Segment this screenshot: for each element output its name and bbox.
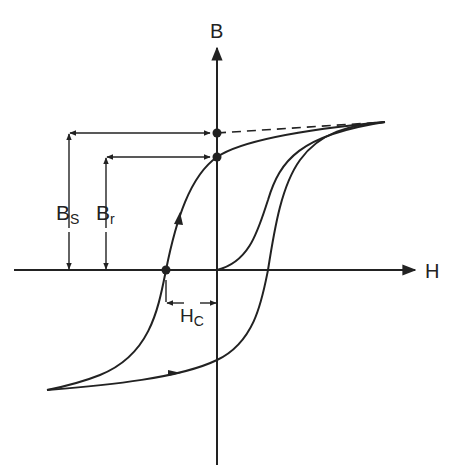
descending-direction-arrow: [174, 212, 183, 225]
coercivity-point: [162, 266, 171, 275]
br-label: Br: [96, 201, 115, 227]
remanence-point: [213, 153, 222, 162]
h-axis-label: H: [425, 260, 439, 282]
ascending-direction-arrow: [168, 370, 181, 376]
b-axis-label: B: [210, 20, 223, 42]
saturation-point: [213, 129, 222, 138]
initial-magnetization-curve: [217, 122, 385, 270]
hysteresis-diagram: B H BS Br HC: [0, 0, 450, 472]
hc-label: HC: [180, 305, 204, 329]
bs-label: BS: [56, 201, 79, 227]
